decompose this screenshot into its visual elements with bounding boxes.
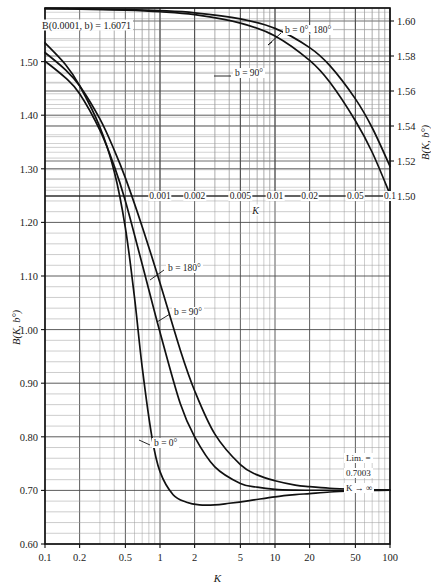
xtick-primary-2: 2	[192, 552, 197, 563]
ytick-primary-1.30: 1.30	[20, 163, 38, 174]
ytick-secondary-1.56: 1.56	[397, 86, 415, 97]
ytick-primary-0.60: 0.60	[20, 539, 38, 550]
xaxis-title-secondary: K	[252, 205, 259, 216]
leader-0	[139, 440, 150, 445]
curve-1	[45, 9, 390, 195]
annotation-curve-90: b = 90°	[172, 307, 204, 317]
ytick-secondary-1.54: 1.54	[397, 121, 415, 132]
xtick-primary-1: 1	[157, 552, 162, 563]
ytick-secondary-1.50: 1.50	[397, 191, 415, 202]
ytick-secondary-1.58: 1.58	[397, 51, 415, 62]
xtick-primary-50: 50	[350, 552, 361, 563]
yaxis-title-primary: B(K, b°)	[11, 310, 22, 345]
xtick-secondary-0.02: 0.02	[300, 191, 319, 201]
xtick-primary-10: 10	[270, 552, 281, 563]
xtick-primary-100: 100	[382, 552, 398, 563]
annotation-limit-value: 0.7003	[344, 468, 373, 478]
xtick-primary-0.5: 0.5	[119, 552, 132, 563]
ytick-primary-0.90: 0.90	[20, 378, 38, 389]
annotation-limit-label: Lim. =	[344, 453, 373, 463]
ytick-primary-1.20: 1.20	[20, 217, 38, 228]
xtick-secondary-0.005: 0.005	[229, 191, 252, 201]
ytick-primary-0.80: 0.80	[20, 431, 38, 442]
annotation-curve-90-upper: b = 90°	[233, 68, 265, 78]
ytick-primary-1.10: 1.10	[20, 271, 38, 282]
ytick-primary-1.50: 1.50	[20, 56, 38, 67]
yaxis-title-secondary: B(K, b°)	[420, 125, 431, 160]
ytick-primary-1.00: 1.00	[20, 324, 38, 335]
xtick-secondary-0.002: 0.002	[183, 191, 206, 201]
leader-90	[157, 314, 170, 322]
ytick-primary-1.40: 1.40	[20, 110, 38, 121]
xaxis-title-primary: K	[214, 572, 221, 582]
annotation-top-left-value: B(0.0001, b) = 1.6071	[40, 20, 133, 31]
annotation-curve-180: b = 180°	[166, 263, 203, 273]
xtick-secondary-0.05: 0.05	[346, 191, 365, 201]
ytick-secondary-1.60: 1.60	[397, 16, 415, 27]
annotation-limit-condition: K → ∞	[344, 483, 374, 493]
ytick-primary-0.70: 0.70	[20, 485, 38, 496]
annotation-curve-0: b = 0°	[152, 438, 179, 448]
xtick-primary-20: 20	[304, 552, 315, 563]
xtick-secondary-0.001: 0.001	[148, 191, 171, 201]
xtick-secondary-0.01: 0.01	[266, 191, 285, 201]
xtick-primary-5: 5	[238, 552, 243, 563]
xtick-secondary-0.1: 0.1	[383, 191, 397, 201]
leader-0-180-head	[268, 42, 272, 45]
xtick-primary-0.1: 0.1	[38, 552, 51, 563]
curve-0	[45, 9, 390, 167]
ytick-secondary-1.52: 1.52	[397, 156, 415, 167]
annotation-curve-0-180-upper: b = 0°, 180°	[283, 25, 333, 35]
xtick-primary-0.2: 0.2	[73, 552, 86, 563]
